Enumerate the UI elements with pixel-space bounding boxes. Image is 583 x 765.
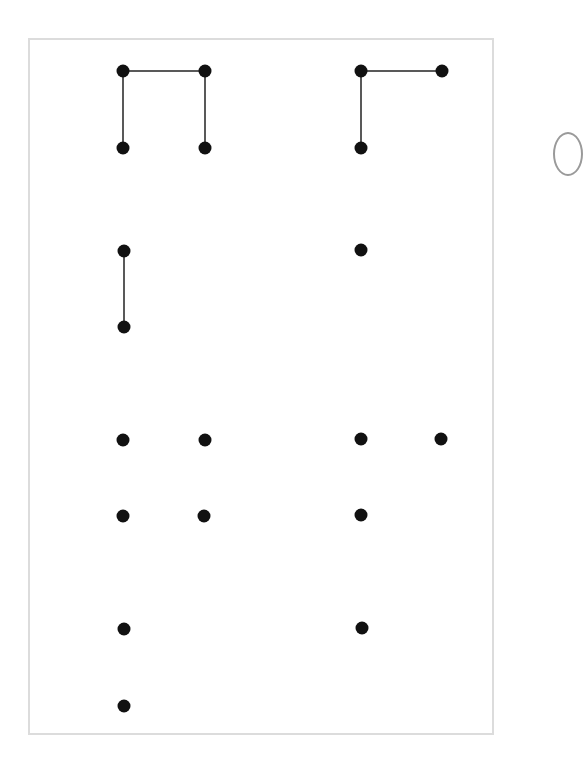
dot <box>199 142 212 155</box>
dot <box>436 65 449 78</box>
dot <box>355 65 368 78</box>
dot <box>117 65 130 78</box>
dot <box>118 623 131 636</box>
dot <box>355 433 368 446</box>
dot <box>355 509 368 522</box>
dot <box>117 434 130 447</box>
dot <box>356 622 369 635</box>
dot <box>118 321 131 334</box>
dot <box>117 142 130 155</box>
dot <box>117 510 130 523</box>
dot <box>118 700 131 713</box>
dot <box>199 434 212 447</box>
dot <box>355 142 368 155</box>
dot <box>198 510 211 523</box>
dot <box>118 245 131 258</box>
dot <box>199 65 212 78</box>
dot <box>355 244 368 257</box>
dot <box>435 433 448 446</box>
